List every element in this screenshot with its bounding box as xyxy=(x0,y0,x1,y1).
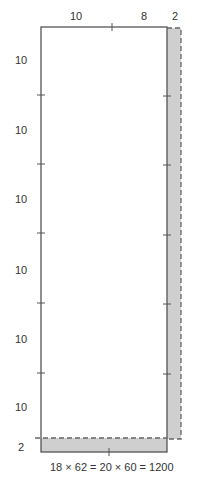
right-shaded-strip xyxy=(167,28,181,439)
equation: 18 × 62 = 20 × 60 = 1200 xyxy=(50,461,190,473)
bottom-shaded-strip xyxy=(41,438,167,452)
main-rectangle xyxy=(41,27,167,452)
rectangle-diagram xyxy=(0,0,201,481)
